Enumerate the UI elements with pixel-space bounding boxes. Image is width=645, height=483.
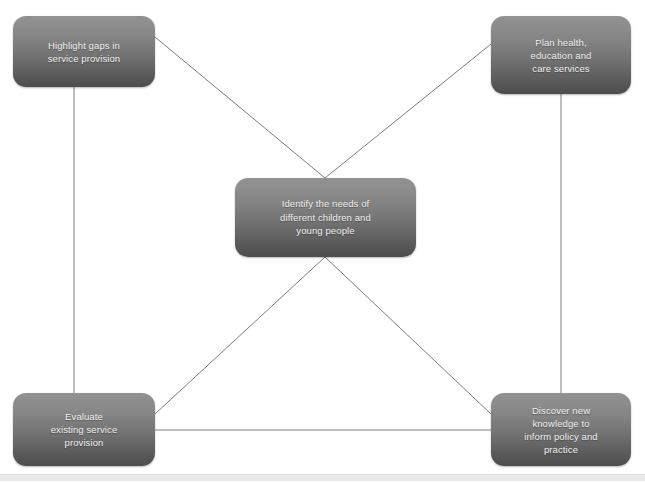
- diagram-canvas: Highlight gaps in service provision Plan…: [0, 0, 645, 483]
- node-label: Highlight gaps in service provision: [48, 39, 120, 65]
- footer-divider: [0, 474, 645, 481]
- node-label: Identify the needs of different children…: [280, 197, 371, 238]
- node-label: Plan health, education and care services: [531, 36, 592, 75]
- edge-center-to-evaluate: [155, 257, 325, 414]
- edge-plan-to-center: [325, 44, 491, 178]
- edge-center-to-discover: [325, 257, 491, 414]
- node-evaluate-services[interactable]: Evaluate existing service provision: [13, 393, 155, 466]
- node-label: Discover new knowledge to inform policy …: [524, 404, 598, 456]
- node-label: Evaluate existing service provision: [51, 410, 118, 449]
- node-plan-services[interactable]: Plan health, education and care services: [491, 16, 631, 94]
- node-discover-knowledge[interactable]: Discover new knowledge to inform policy …: [491, 393, 631, 466]
- node-identify-needs[interactable]: Identify the needs of different children…: [235, 178, 416, 257]
- edge-highlight-to-center: [155, 37, 325, 178]
- node-highlight-gaps[interactable]: Highlight gaps in service provision: [13, 16, 155, 87]
